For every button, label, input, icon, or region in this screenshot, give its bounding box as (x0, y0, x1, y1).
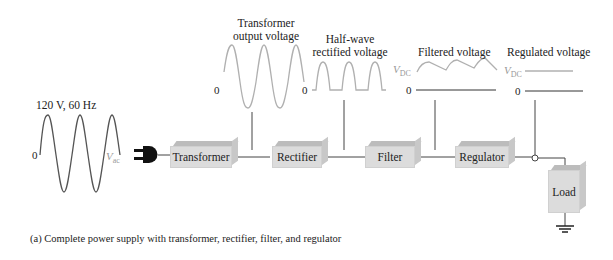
load-block: Load (548, 170, 580, 213)
half-wave-zero: 0 (302, 84, 308, 96)
filter-label: Filter (378, 151, 403, 163)
source-zero-label: 0 (32, 149, 38, 161)
regulator-block: Regulator (455, 146, 509, 168)
rectifier-block: Rectifier (272, 146, 322, 168)
transformer-output-waveform (224, 45, 304, 108)
regulated-zero: 0 (515, 85, 521, 97)
half-wave-waveform (312, 62, 386, 90)
transformer-block: Transformer (170, 146, 232, 168)
transformer-label: Transformer (172, 151, 229, 163)
half-wave-title: Half-waverectified voltage (310, 33, 390, 59)
figure-caption: (a) Complete power supply with transform… (30, 233, 341, 244)
ground-icon (556, 213, 574, 232)
load-label: Load (552, 186, 576, 198)
source-rating-label: 120 V, 60 Hz (36, 99, 96, 112)
filtered-waveform (417, 58, 497, 72)
filtered-zero: 0 (406, 84, 412, 96)
vac-label: Vac (106, 150, 120, 165)
transformer-output-title: Transformeroutput voltage (222, 17, 310, 43)
filtered-vdc-label: VDC (393, 63, 411, 78)
rectifier-label: Rectifier (277, 151, 317, 163)
filter-block: Filter (365, 146, 415, 168)
regulated-title: Regulated voltage (507, 46, 590, 59)
regulator-label: Regulator (459, 151, 504, 163)
plug-icon (134, 146, 158, 163)
regulated-vdc-label: VDC (504, 64, 522, 79)
filtered-title: Filtered voltage (418, 46, 491, 59)
transformer-output-zero: 0 (214, 84, 220, 96)
